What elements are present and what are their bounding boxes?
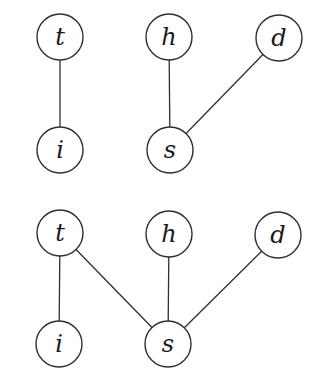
svg-text:t: t [55, 23, 65, 51]
bottom-graph: t h d i s [36, 210, 301, 367]
edge-t-i [59, 256, 60, 321]
node-t: t [37, 14, 83, 60]
diagram-canvas: t h d i s t h d i s [0, 0, 322, 387]
node-s: s [145, 321, 191, 367]
svg-text:s: s [162, 330, 174, 358]
svg-text:d: d [270, 221, 285, 249]
svg-text:d: d [271, 24, 286, 52]
top-graph: t h d i s [37, 14, 302, 173]
svg-text:s: s [164, 136, 176, 164]
edge-h-s [169, 60, 170, 127]
svg-text:h: h [161, 220, 176, 248]
edge-d-s [186, 54, 263, 133]
node-t: t [37, 210, 83, 256]
node-h: h [146, 14, 192, 60]
top-graph-edges [60, 54, 263, 133]
bottom-graph-edges [59, 249, 261, 327]
svg-text:i: i [56, 136, 64, 164]
svg-text:t: t [55, 219, 65, 247]
node-i: i [36, 321, 82, 367]
node-d: d [255, 212, 301, 258]
edge-h-s [168, 257, 169, 321]
edge-d-s [184, 251, 261, 328]
svg-text:i: i [55, 330, 63, 358]
node-s: s [147, 127, 193, 173]
svg-text:h: h [161, 23, 176, 51]
edge-t-s [76, 249, 152, 327]
node-h: h [146, 211, 192, 257]
node-d: d [256, 15, 302, 61]
node-i: i [37, 127, 83, 173]
